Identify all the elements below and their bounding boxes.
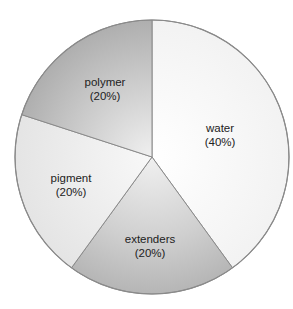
label-water-name: water	[205, 122, 234, 134]
label-water-value: (40%)	[205, 136, 236, 148]
label-polymer-name: polymer	[85, 76, 126, 88]
label-extenders-value: (20%)	[135, 247, 166, 259]
label-pigment-value: (20%)	[56, 186, 87, 198]
label-extenders-name: extenders	[125, 233, 176, 245]
label-pigment-name: pigment	[51, 172, 93, 184]
pie-chart: water (40%) extenders (20%) pigment (20%…	[0, 0, 293, 309]
label-polymer-value: (20%)	[90, 90, 121, 102]
